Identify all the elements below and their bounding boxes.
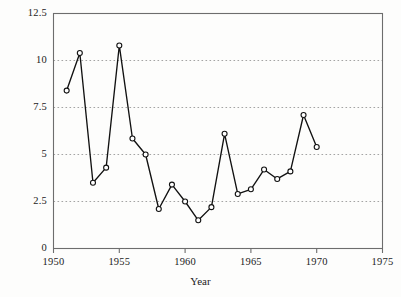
data-point-marker: 1963: 6.1 [222,131,227,136]
x-tick-marks [54,249,383,254]
x-tick-label: 1960 [162,256,208,267]
y-tick-label: 7.5 [3,101,47,112]
data-point-marker: 1962: 2.2 [209,205,214,210]
gridlines-group [54,61,383,202]
data-point-marker: 1968: 4.1 [288,169,293,174]
data-point-marker: 1952: 10.4 [77,50,82,55]
chart-plot-area: 1951: 8.41952: 10.41953: 3.51954: 4.3195… [0,0,401,297]
plot-frame [54,14,383,249]
data-markers: 1951: 8.41952: 10.41953: 3.51954: 4.3195… [64,43,319,223]
x-tick-label: 1950 [31,256,77,267]
data-point-marker: 1967: 3.7 [275,176,280,181]
data-point-marker: 1964: 2.9 [235,191,240,196]
data-point-marker: 1956: 5.85 [130,136,135,141]
data-point-marker: 1965: 3.15 [248,187,253,192]
data-point-marker: 1955: 10.8 [117,43,122,48]
data-point-marker: 1960: 2.5 [183,199,188,204]
y-tick-label: 10 [3,54,47,65]
x-tick-label: 1970 [294,256,340,267]
data-point-marker: 1966: 4.2 [262,167,267,172]
data-point-marker: 1953: 3.5 [90,180,95,185]
data-point-marker: 1959: 3.4 [169,182,174,187]
x-tick-label: 1965 [228,256,274,267]
x-tick-label: 1955 [96,256,142,267]
y-tick-label: 5 [3,148,47,159]
x-axis-title: Year [0,275,401,287]
axis-frame [54,14,383,249]
data-line [67,45,317,220]
y-tick-label: 2.5 [3,195,47,206]
data-point-marker: 1954: 4.3 [104,165,109,170]
data-point-marker: 1961: 1.5 [196,218,201,223]
y-tick-label: 12.5 [3,7,47,18]
series-polyline [67,45,317,220]
chart-figure: 1951: 8.41952: 10.41953: 3.51954: 4.3195… [0,0,401,297]
data-point-marker: 1951: 8.4 [64,88,69,93]
data-point-marker: 1957: 5 [143,152,148,157]
y-tick-label: 0 [3,242,47,253]
data-point-marker: 1958: 2.1 [156,207,161,212]
data-point-marker: 1969: 7.1 [301,113,306,118]
data-point-marker: 1970: 5.4 [314,144,319,149]
x-tick-label: 1975 [360,256,401,267]
